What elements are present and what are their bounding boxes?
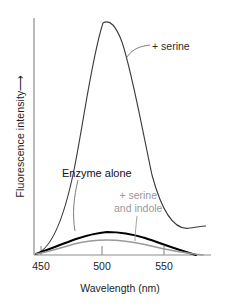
- curve-plus-serine: [36, 22, 206, 254]
- annotation-serine-and-indole-line2: and indole: [114, 202, 162, 215]
- leader-line-serine-indole: [135, 216, 137, 241]
- x-tick-label-550: 550: [155, 260, 173, 272]
- fluorescence-spectrum-figure: 450 500 550 Wavelength (nm) Fluorescence…: [0, 0, 225, 306]
- y-axis-title: Fluorescence intensity⟶: [14, 26, 26, 246]
- annotation-plus-serine: + serine: [152, 40, 190, 52]
- annotation-serine-and-indole-line1: + serine: [114, 189, 162, 202]
- plot-area: 450 500 550 Wavelength (nm): [0, 0, 225, 306]
- curve-enzyme-alone: [36, 232, 196, 255]
- y-axis-title-text: Fluorescence intensity: [14, 91, 26, 198]
- annotation-serine-and-indole: + serine and indole: [114, 189, 162, 214]
- x-axis-title: Wavelength (nm): [80, 282, 160, 294]
- leader-line-serine: [127, 45, 150, 57]
- x-tick-label-450: 450: [32, 260, 50, 272]
- x-tick-label-500: 500: [93, 260, 111, 272]
- annotation-enzyme-alone: Enzyme alone: [62, 167, 132, 179]
- leader-line-enzyme-alone: [74, 180, 78, 231]
- curve-plus-serine-and-indole: [36, 240, 203, 255]
- y-axis-arrow-icon: ⟶: [14, 75, 26, 91]
